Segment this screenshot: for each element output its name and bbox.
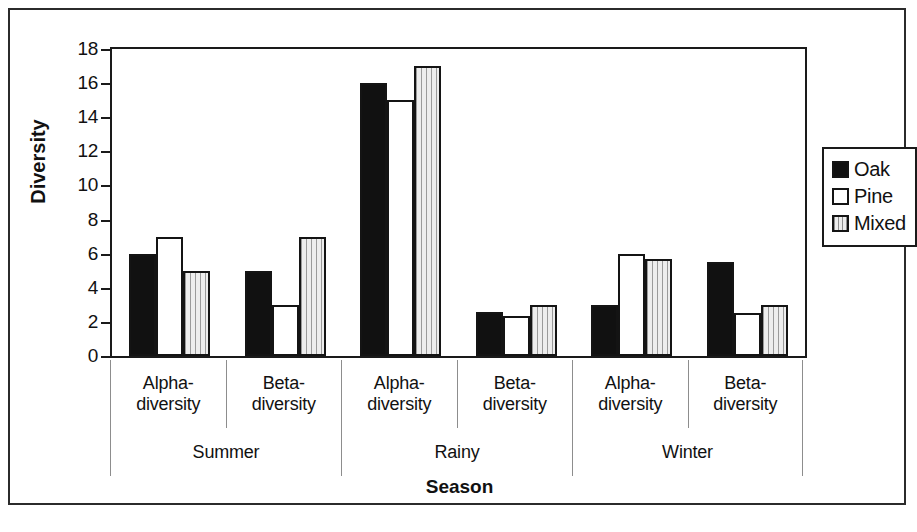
x-category-label-line: Alpha- [598, 373, 662, 394]
x-category-cell: Beta-diversity [457, 360, 573, 428]
x-category-cell: Beta-diversity [688, 360, 804, 428]
y-tick-mark [101, 185, 110, 187]
bar-pine [618, 254, 645, 356]
bar-mixed [530, 305, 557, 356]
x-category-cell: Alpha-diversity [341, 360, 457, 428]
x-axis-category-labels: Alpha-diversityBeta-diversityAlpha-diver… [110, 360, 809, 428]
bar-oak [245, 271, 272, 356]
x-group-cell: Rainy [341, 428, 572, 476]
x-category-label-line: diversity [136, 394, 200, 415]
x-category-label-line: Alpha- [136, 373, 200, 394]
bar-oak [591, 305, 618, 356]
y-tick-mark [101, 322, 110, 324]
bar-pine [387, 100, 414, 356]
legend-label: Pine [854, 185, 893, 208]
bar-oak [476, 312, 503, 356]
x-category-label: Alpha-diversity [136, 373, 200, 414]
legend-item-oak: Oak [832, 156, 906, 183]
legend-label: Oak [854, 158, 890, 181]
x-category-label-line: Alpha- [367, 373, 431, 394]
y-tick-mark [101, 151, 110, 153]
bar-group [476, 49, 557, 356]
x-category-label-line: diversity [713, 394, 777, 415]
x-category-label-line: diversity [367, 394, 431, 415]
x-category-label-line: diversity [598, 394, 662, 415]
bar-mixed [183, 271, 210, 356]
y-tick-label: 18 [77, 38, 98, 60]
y-tick-label: 0 [88, 345, 98, 367]
bar-group [245, 49, 326, 356]
y-tick-label: 14 [77, 106, 98, 128]
bar-oak [360, 83, 387, 356]
y-tick-label: 4 [88, 277, 98, 299]
bar-group [707, 49, 788, 356]
bar-mixed [299, 237, 326, 356]
x-axis-title: Season [110, 476, 809, 498]
y-tick-label: 10 [77, 174, 98, 196]
y-tick-mark [101, 117, 110, 119]
bar-pine [272, 305, 299, 356]
y-tick-mark [101, 254, 110, 256]
x-category-label: Beta-diversity [252, 373, 316, 414]
bar-mixed [761, 305, 788, 356]
y-tick-mark [101, 49, 110, 51]
bar-mixed [414, 66, 441, 356]
legend: OakPineMixed [822, 147, 917, 247]
x-category-label: Alpha-diversity [598, 373, 662, 414]
legend-swatch-pine-icon [832, 188, 849, 205]
x-group-label: Winter [662, 442, 713, 463]
y-tick-mark [101, 288, 110, 290]
x-category-cell: Alpha-diversity [110, 360, 226, 428]
legend-item-pine: Pine [832, 183, 906, 210]
y-tick-mark [101, 220, 110, 222]
legend-swatch-mixed-icon [832, 215, 849, 232]
x-axis-group-labels: SummerRainyWinter [110, 428, 809, 476]
bar-pine [503, 316, 530, 356]
x-category-label-line: Beta- [483, 373, 547, 394]
x-category-label: Alpha-diversity [367, 373, 431, 414]
x-category-label-line: diversity [252, 394, 316, 415]
y-tick-label: 6 [88, 243, 98, 265]
y-tick-mark [101, 356, 110, 358]
bar-pine [156, 237, 183, 356]
y-tick-label: 16 [77, 72, 98, 94]
x-category-label-line: diversity [483, 394, 547, 415]
bar-mixed [645, 259, 672, 356]
bar-group [129, 49, 210, 356]
bar-group [591, 49, 672, 356]
x-category-cell: Beta-diversity [226, 360, 342, 428]
y-tick-label: 8 [88, 209, 98, 231]
x-group-cell: Summer [110, 428, 341, 476]
x-category-label: Beta-diversity [713, 373, 777, 414]
x-group-cell: Winter [572, 428, 803, 476]
x-group-label: Rainy [434, 442, 479, 463]
y-axis-tick-labels: 181614121086420 [40, 47, 98, 358]
bar-oak [707, 262, 734, 356]
x-category-label-line: Beta- [252, 373, 316, 394]
bars-layer [112, 49, 805, 356]
x-category-label: Beta-diversity [483, 373, 547, 414]
bar-group [360, 49, 441, 356]
bar-pine [734, 313, 761, 356]
y-tick-mark [101, 83, 110, 85]
legend-item-mixed: Mixed [832, 210, 906, 237]
x-category-label-line: Beta- [713, 373, 777, 394]
figure-frame: Diversity 181614121086420 Alpha-diversit… [8, 8, 906, 505]
legend-label: Mixed [854, 212, 906, 235]
y-tick-label: 2 [88, 311, 98, 333]
x-group-label: Summer [193, 442, 260, 463]
y-tick-label: 12 [77, 140, 98, 162]
legend-swatch-oak-icon [832, 161, 849, 178]
x-category-cell: Alpha-diversity [572, 360, 688, 428]
bar-oak [129, 254, 156, 356]
